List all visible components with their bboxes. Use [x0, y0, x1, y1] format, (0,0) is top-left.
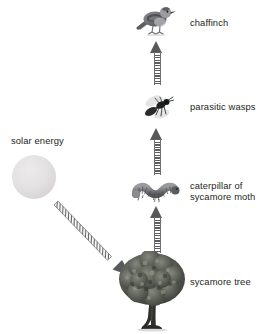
- label-chaffinch: chaffinch: [190, 17, 228, 28]
- arrow-shaft: [154, 52, 161, 85]
- label-sycamore-tree: sycamore tree: [190, 276, 251, 287]
- label-caterpillar: caterpillar of sycamore moth: [190, 180, 255, 202]
- arrow-wasps-to-chaffinch: [150, 41, 163, 85]
- caterpillar-icon: [131, 177, 181, 203]
- arrow-caterpillar-to-wasps: [150, 128, 163, 176]
- bird-icon: [133, 3, 179, 37]
- tree-icon: [116, 251, 190, 333]
- arrow-shaft: [154, 217, 161, 253]
- label-solar-energy: solar energy: [11, 135, 64, 146]
- arrow-shaft: [154, 139, 161, 175]
- food-chain-diagram: chaffinch parasitic wasps: [0, 0, 264, 334]
- arrow-tree-to-caterpillar: [150, 206, 163, 254]
- wasp-icon: [140, 92, 176, 124]
- label-parasitic-wasps: parasitic wasps: [190, 101, 256, 112]
